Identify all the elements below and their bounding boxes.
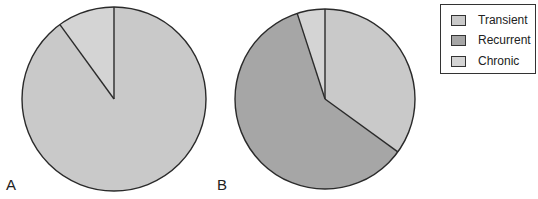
legend-label-chronic: Chronic (478, 54, 519, 68)
legend: Transient Recurrent Chronic (440, 4, 536, 74)
pie-b (235, 9, 415, 189)
legend-swatch-chronic (451, 56, 466, 67)
legend-swatch-recurrent (451, 35, 466, 46)
legend-label-transient: Transient (478, 13, 528, 27)
panel-label-a: A (6, 176, 16, 193)
legend-swatch-transient (451, 15, 466, 26)
legend-item-chronic: Chronic (451, 53, 519, 69)
pie-a (22, 7, 206, 191)
legend-item-transient: Transient (451, 12, 528, 28)
legend-label-recurrent: Recurrent (478, 33, 531, 47)
legend-item-recurrent: Recurrent (451, 32, 531, 48)
panel-label-b: B (217, 176, 227, 193)
